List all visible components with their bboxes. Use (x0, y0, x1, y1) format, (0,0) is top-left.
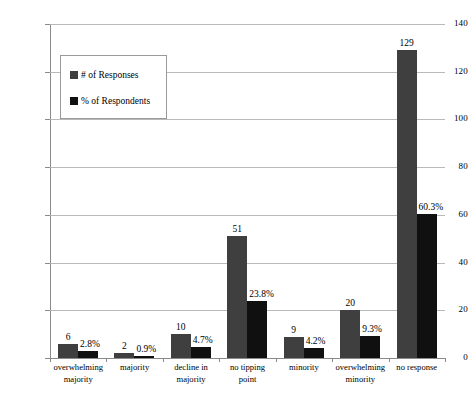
x-category-label-line: overwhelming (332, 362, 388, 374)
bar-responses (227, 236, 247, 358)
bar-responses (284, 337, 304, 358)
bar-responses (58, 344, 78, 358)
bar-responses (340, 310, 360, 358)
x-category-label: majority (106, 362, 162, 374)
bar-group: 209.3% (332, 24, 388, 358)
x-category-label: overwhelmingmajority (50, 362, 106, 385)
bar-value-label: 10 (172, 322, 190, 332)
x-tick-mark (219, 358, 220, 362)
x-category-label: no response (389, 362, 445, 374)
bar-group: 104.7% (163, 24, 219, 358)
bar-value-label: 9 (285, 325, 303, 335)
legend-item-percent: % of Respondents (70, 96, 150, 106)
x-tick-mark (389, 358, 390, 362)
legend-swatch-responses (70, 71, 78, 79)
x-category-label-line: overwhelming (50, 362, 106, 374)
bar-group: 12960.3% (389, 24, 445, 358)
x-tick-mark (50, 358, 51, 362)
legend-swatch-percent (70, 97, 78, 105)
bar-percent (304, 348, 324, 358)
bar-value-label: 6 (59, 332, 77, 342)
x-category-label-line: majority (106, 362, 162, 374)
x-category-label: overwhelmingminority (332, 362, 388, 385)
x-category-label-line: no tipping (219, 362, 275, 374)
gridline (50, 358, 445, 359)
x-category-label: decline inmajority (163, 362, 219, 385)
bar-value-label: 9.3% (362, 324, 382, 334)
x-category-label-line: majority (163, 374, 219, 386)
x-tick-mark (276, 358, 277, 362)
x-tick-mark (332, 358, 333, 362)
bar-responses (171, 334, 191, 358)
bar-responses (397, 50, 417, 358)
bar-percent (247, 301, 267, 358)
bar-percent (360, 336, 380, 358)
legend-item-responses: # of Responses (70, 70, 139, 80)
bar-percent (417, 214, 437, 358)
bar-group: 5123.8% (219, 24, 275, 358)
bar-value-label: 4.2% (306, 336, 326, 346)
x-category-label-line: no response (389, 362, 445, 374)
legend-label-responses: # of Responses (81, 70, 139, 80)
x-category-label-line: minority (276, 362, 332, 374)
bar-value-label: 2.8% (80, 339, 100, 349)
bar-responses (114, 353, 134, 358)
bar-group: 94.2% (276, 24, 332, 358)
chart-legend: # of Responses % of Respondents (60, 55, 167, 119)
x-category-label-line: majority (50, 374, 106, 386)
x-tick-mark (106, 358, 107, 362)
x-category-label: no tippingpoint (219, 362, 275, 385)
x-category-label-line: decline in (163, 362, 219, 374)
x-tick-mark (445, 358, 446, 362)
x-category-label-line: point (219, 374, 275, 386)
bar-value-label: 129 (398, 38, 416, 48)
bar-percent (134, 356, 154, 358)
bar-percent (78, 351, 98, 358)
x-axis-labels: overwhelmingmajoritymajoritydecline inma… (50, 362, 445, 402)
bar-chart: 020406080100120140 62.8%20.9%104.7%5123.… (0, 0, 468, 415)
bar-percent (191, 347, 211, 358)
bar-value-label: 2 (115, 341, 133, 351)
bar-value-label: 4.7% (193, 335, 213, 345)
bar-value-label: 23.8% (249, 289, 274, 299)
x-category-label-line: minority (332, 374, 388, 386)
bar-value-label: 0.9% (136, 344, 156, 354)
legend-label-percent: % of Respondents (81, 96, 150, 106)
x-category-label: minority (276, 362, 332, 374)
bar-value-label: 51 (228, 224, 246, 234)
bar-value-label: 60.3% (419, 202, 444, 212)
bar-value-label: 20 (341, 298, 359, 308)
x-tick-mark (163, 358, 164, 362)
